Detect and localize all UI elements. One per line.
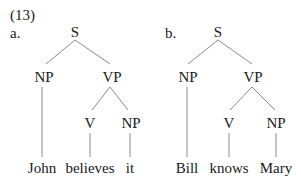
- tree-a-word-john: John: [28, 161, 56, 176]
- edge-b-s-np: [188, 40, 218, 64]
- tree-a-label: a.: [10, 26, 20, 41]
- edge-b-vp-v: [230, 87, 252, 110]
- edge-a-vp-np: [110, 87, 128, 110]
- tree-b-word-bill: Bill: [176, 161, 199, 176]
- tree-b-node-np-object: NP: [266, 116, 285, 131]
- edge-a-s-vp: [75, 40, 110, 64]
- tree-a-node-vp: VP: [102, 70, 121, 85]
- tree-b-node-vp: VP: [243, 70, 262, 85]
- tree-a-node-v: V: [85, 116, 96, 131]
- edge-b-s-vp: [218, 40, 252, 64]
- tree-b-node-np-subject: NP: [178, 70, 197, 85]
- tree-b-word-knows: knows: [209, 161, 248, 176]
- tree-b-node-v: V: [224, 116, 235, 131]
- tree-b-label: b.: [165, 26, 176, 41]
- tree-a-word-it: it: [126, 161, 134, 176]
- edge-b-vp-np: [252, 87, 275, 110]
- example-number: (13): [10, 8, 35, 23]
- tree-a-word-believes: believes: [65, 161, 114, 176]
- tree-a-node-s: S: [71, 25, 79, 40]
- tree-a-node-np-object: NP: [121, 116, 140, 131]
- tree-edges: [0, 0, 301, 187]
- tree-b-word-mary: Mary: [260, 161, 293, 176]
- tree-b-node-s: S: [214, 25, 222, 40]
- tree-a-node-np-subject: NP: [34, 70, 53, 85]
- edge-a-s-np: [46, 40, 75, 64]
- edge-a-vp-v: [92, 87, 110, 110]
